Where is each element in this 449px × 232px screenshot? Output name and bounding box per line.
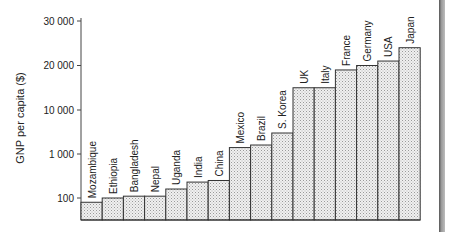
bar-japan [399,48,420,220]
bar-label: China [214,150,225,177]
bar-label: Bangladesh [129,139,140,192]
y-axis: 1001 00010 00020 00030 000 [43,16,81,221]
bar-china [208,180,229,220]
y-tick-label: 1 000 [49,149,74,160]
bar-ethiopia [102,198,123,220]
bar-usa [378,61,399,220]
y-tick-label: 100 [57,193,74,204]
bar-italy [314,88,335,220]
bar-india [187,182,208,220]
y-tick-label: 30 000 [43,16,74,27]
bar-label: USA [383,36,394,57]
bar-label: Germany [362,20,373,61]
y-tick-label: 20 000 [43,60,74,71]
bar-bangladesh [123,196,144,220]
bar-label: S. Korea [277,90,288,129]
bar-france [335,70,356,220]
bar-label: UK [299,70,310,84]
bar-nepal [145,196,166,220]
bar-label: Italy [320,65,331,83]
bar-chart: GNP per capita ($) 1001 00010 00020 0003… [0,0,449,232]
bar-s-korea [272,133,293,220]
bar-label: Ethiopia [108,157,119,194]
bars: MozambiqueEthiopiaBangladeshNepalUgandaI… [81,16,420,220]
bar-germany [357,66,378,221]
bar-brazil [251,145,272,220]
bar-label: Mexico [235,111,246,143]
bar-mozambique [81,202,102,220]
bar-uk [293,88,314,220]
bar-label: Uganda [171,150,182,185]
page-edge-bar [439,0,445,232]
bar-label: Brazil [256,116,267,141]
y-tick-label: 10 000 [43,105,74,116]
bar-label: India [193,156,204,178]
bar-mexico [229,148,250,220]
bar-label: Japan [405,16,416,43]
bar-label: France [341,34,352,66]
y-axis-title: GNP per capita ($) [14,72,26,164]
bar-label: Mozambique [87,141,98,199]
bar-uganda [166,189,187,220]
bar-label: Nepal [150,166,161,192]
